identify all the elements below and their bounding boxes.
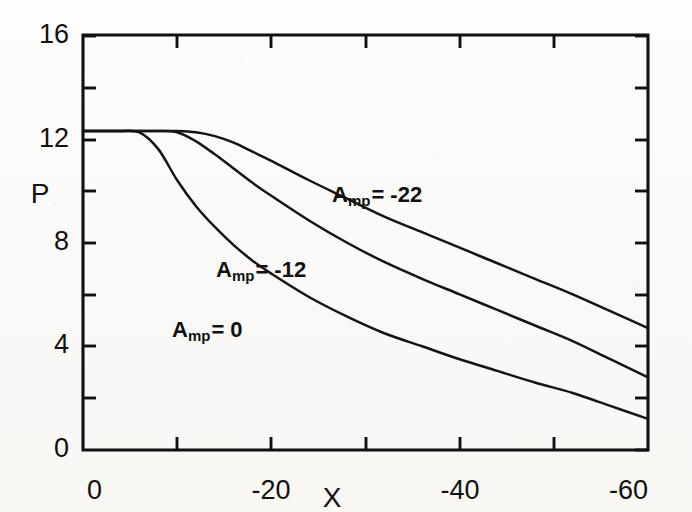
y-tick-label-8: 8: [54, 226, 69, 256]
y-tick-label-16: 16: [39, 19, 69, 49]
data-curves-group: [83, 131, 648, 419]
annotation-value: = -12: [255, 257, 306, 282]
series-annotation-0: Amp= -22: [332, 182, 422, 209]
annotation-value: = 0: [211, 317, 242, 342]
curve-series-0: [83, 131, 648, 419]
plot-frame: [83, 35, 648, 450]
x-tick-label-0: 0: [87, 475, 102, 505]
series-annotation-1: Amp= -12: [216, 257, 306, 284]
y-tick-label-12: 12: [39, 123, 69, 153]
x-tick-label-neg40: -40: [440, 475, 479, 505]
axis-titles-group: P X: [31, 178, 342, 512]
annotation-subscript: mp: [188, 327, 211, 344]
series-annotation-2: Amp= 0: [172, 317, 243, 344]
tick-marks-group: [83, 35, 648, 450]
y-tick-label-4: 4: [54, 329, 69, 359]
x-axis-title: X: [323, 482, 342, 512]
x-tick-label-neg60: -60: [609, 475, 648, 505]
tick-labels-group: 16128400-20-40-60: [39, 19, 648, 505]
y-tick-label-0: 0: [54, 433, 69, 463]
annotation-symbol: A: [332, 182, 348, 207]
y-axis-title: P: [31, 178, 50, 209]
curve-series-2: [83, 131, 648, 328]
figure-root: 16128400-20-40-60 Amp= -22Amp= -12Amp= 0…: [0, 0, 692, 512]
annotation-symbol: A: [172, 317, 188, 342]
annotation-symbol: A: [216, 257, 232, 282]
annotation-value: = -22: [371, 182, 422, 207]
axis-frame-path: [83, 35, 648, 450]
annotation-subscript: mp: [232, 267, 255, 284]
annotation-subscript: mp: [348, 192, 371, 209]
chart-canvas: 16128400-20-40-60 Amp= -22Amp= -12Amp= 0…: [0, 0, 692, 512]
curve-series-1: [83, 131, 648, 378]
x-tick-label-neg20: -20: [251, 475, 290, 505]
